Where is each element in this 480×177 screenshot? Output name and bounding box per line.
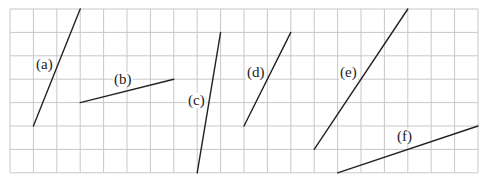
label-c: (c) xyxy=(187,93,206,108)
label-e: (e) xyxy=(339,65,358,80)
label-d: (d) xyxy=(246,65,266,80)
segments xyxy=(33,9,478,173)
grid-diagram xyxy=(0,0,480,177)
grid-lines xyxy=(10,9,478,173)
label-a: (a) xyxy=(35,57,54,72)
label-b: (b) xyxy=(113,72,133,87)
label-f: (f) xyxy=(396,129,413,144)
